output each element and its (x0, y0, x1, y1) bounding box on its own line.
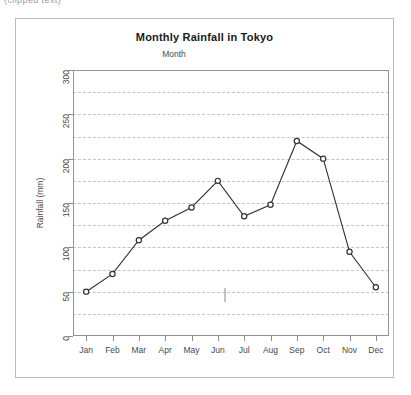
x-axis-tick-label: Nov (342, 345, 357, 355)
data-point-marker (268, 202, 273, 207)
x-axis-tick (218, 336, 219, 341)
x-axis-tick (376, 336, 377, 341)
y-axis-tick-label: 0 (61, 336, 71, 341)
data-point-marker (215, 178, 220, 183)
data-point-marker (347, 249, 352, 254)
clipped-top-text-label: (clipped text) (4, 0, 411, 5)
x-axis-tick (86, 336, 87, 341)
data-point-marker (321, 156, 326, 161)
x-axis-tick-label: Apr (159, 345, 172, 355)
y-axis-tick-label: 300 (61, 70, 71, 84)
rainfall-series (73, 70, 389, 336)
data-point-marker (294, 138, 299, 143)
x-axis-tick-label: Oct (317, 345, 330, 355)
x-axis-tick (297, 336, 298, 341)
x-axis-tick (244, 336, 245, 341)
data-point-marker (84, 289, 89, 294)
y-axis-tick-label: 200 (61, 159, 71, 173)
page-title: Monthly Rainfall in Tokyo (16, 31, 393, 43)
y-axis-title: Rainfall (mm) (34, 70, 46, 336)
x-axis-tick-label: Dec (368, 345, 383, 355)
y-axis-tick-label: 250 (61, 114, 71, 128)
x-axis-tick-label: Feb (105, 345, 120, 355)
x-axis-tick (323, 336, 324, 341)
plot-area (73, 70, 389, 336)
x-axis-tick-label: Sep (289, 345, 304, 355)
series-line (86, 141, 376, 292)
x-axis-tick (271, 336, 272, 341)
data-point-marker (242, 214, 247, 219)
data-point-marker (373, 285, 378, 290)
x-axis-tick-label: Mar (132, 345, 147, 355)
x-axis: JanFebMarAprMayJunJulAugSepOctNovDec (73, 336, 389, 376)
x-axis-tick (165, 336, 166, 341)
x-axis-tick (139, 336, 140, 341)
x-axis-tick-label: May (183, 345, 199, 355)
x-axis-tick-label: Aug (263, 345, 278, 355)
data-point-marker (163, 218, 168, 223)
chart-frame: Monthly Rainfall in Tokyo Rainfall (mm) … (15, 18, 394, 378)
data-point-marker (189, 205, 194, 210)
x-axis-title: Month (16, 49, 332, 59)
y-axis-title-label: Rainfall (mm) (35, 178, 45, 229)
y-axis: 050100150200250300 (59, 70, 73, 336)
y-axis-tick-label: 100 (61, 247, 71, 261)
data-point-marker (110, 271, 115, 276)
x-axis-tick-label: Jul (239, 345, 250, 355)
clipped-top-text: (clipped text) (0, 0, 411, 7)
data-point-marker (136, 238, 141, 243)
x-axis-tick (113, 336, 114, 341)
y-axis-tick-label: 50 (61, 292, 71, 301)
x-axis-tick (192, 336, 193, 341)
x-axis-tick-label: Jun (211, 345, 225, 355)
y-axis-tick-label: 150 (61, 203, 71, 217)
x-axis-tick (350, 336, 351, 341)
x-axis-tick-label: Jan (79, 345, 93, 355)
